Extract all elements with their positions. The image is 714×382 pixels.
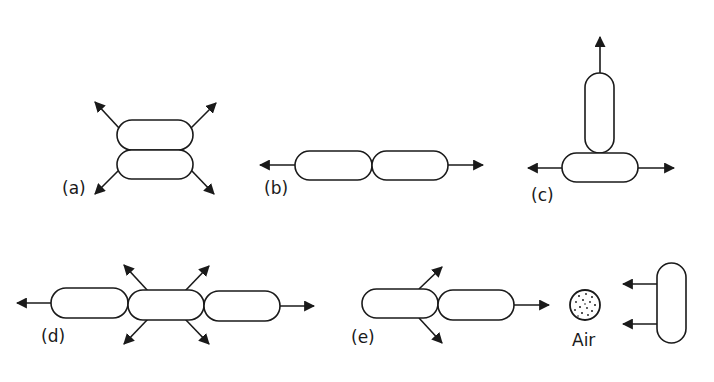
arrow-icon [191,170,214,194]
arrow-icon [419,318,442,343]
cell-capsule [295,151,372,180]
panel-d: (d) [17,265,314,346]
panel-label-c: (c) [531,185,554,205]
arrow-icon [95,170,119,194]
cell-capsule [204,291,280,321]
panel-label-a: (a) [62,178,86,198]
arrow-icon [185,319,209,344]
panel-label-b: (b) [264,178,288,198]
arrow-icon [124,265,148,291]
air-particles-icon [570,290,600,320]
arrow-icon [419,267,442,289]
cell-capsule [372,151,448,180]
panel-e: (e) [351,267,549,347]
arrow-icon [185,266,209,291]
cell-capsule [51,288,128,318]
panel-label-d: (d) [41,326,65,346]
cell-capsule [585,73,614,153]
air-label: Air [572,330,595,350]
panel-c: (c) [528,37,674,205]
cell-capsule [117,120,193,150]
arrow-icon [191,103,216,128]
cell-capsule [562,153,638,182]
panel-b: (b) [260,151,483,198]
arrow-icon [95,102,119,128]
air-group: Air [570,290,600,350]
cell-capsule [438,290,514,320]
panel-a: (a) [62,102,216,198]
panel-air-cell [623,263,686,343]
cell-capsule [117,150,193,179]
diagram-canvas: (a) (b) (c) (d) (e) [0,0,714,382]
cell-capsule [657,263,686,343]
cell-capsule [128,290,204,320]
panel-label-e: (e) [351,327,375,347]
arrow-icon [124,319,148,344]
cell-capsule [362,289,438,318]
